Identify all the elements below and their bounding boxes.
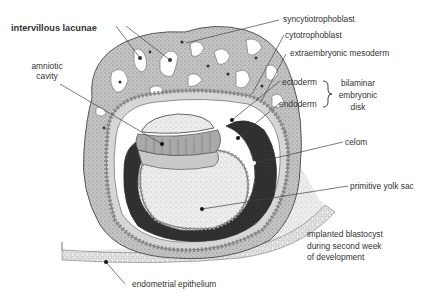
label-primitive-yolk-sac: primitive yolk sac (350, 181, 414, 191)
label-cytotrophoblast: cytotrophoblast (285, 30, 342, 40)
label-endoderm: endoderm (279, 99, 317, 109)
bilaminar-brace (323, 81, 332, 107)
label-extraembryonic-mesoderm: extraembryonic mesoderm (290, 48, 389, 58)
label-intervillous-lacunae: intervillous lacunae (11, 23, 97, 33)
label-endometrial-epithelium: endometrial epithelium (132, 279, 216, 289)
caption: implanted blastocyst during second week … (307, 229, 383, 264)
label-bilaminar-embryonic-disk: bilaminar embryonic disk (333, 77, 383, 113)
label-celom: celom (345, 137, 367, 147)
label-syncytiotrophoblast: syncytiotrophoblast (283, 14, 355, 24)
label-amniotic-cavity: amniotic cavity (24, 61, 70, 81)
label-ectoderm: ectoderm (282, 77, 317, 87)
